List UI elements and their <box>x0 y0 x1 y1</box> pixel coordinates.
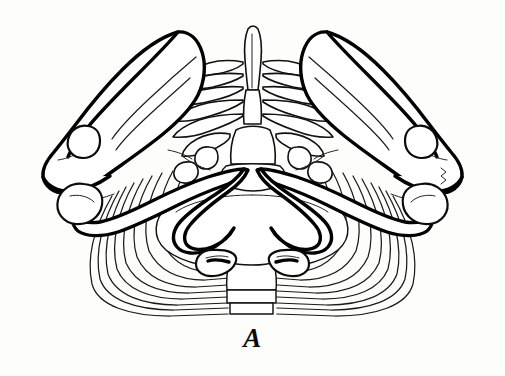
right-acromion <box>403 184 448 224</box>
anatomical-line-drawing <box>0 0 505 376</box>
sternum <box>227 262 277 314</box>
anatomical-figure-panel: A <box>0 0 505 376</box>
spinous-process <box>245 26 262 90</box>
figure-label: A <box>0 325 505 352</box>
left-acromion <box>57 184 102 224</box>
